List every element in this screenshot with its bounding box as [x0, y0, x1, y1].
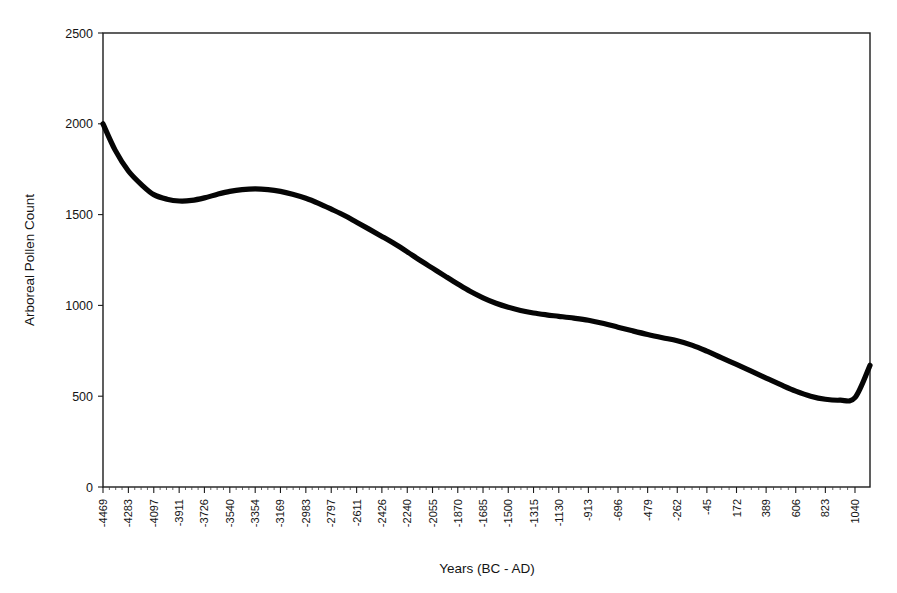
x-tick-label: -262 [671, 499, 683, 521]
x-tick-label: -3169 [274, 499, 286, 527]
x-tick-label: -4283 [122, 499, 134, 527]
x-tick-label: -2240 [401, 499, 413, 527]
x-tick-label: -1130 [553, 499, 565, 526]
x-tick-label: -1870 [452, 499, 464, 527]
x-tick-label: 606 [790, 499, 802, 517]
pollen-count-line-chart: 05001000150020002500 -4469-4283-4097-391… [0, 0, 897, 593]
x-tick-label: -1315 [528, 499, 540, 527]
x-tick-label: -3354 [249, 499, 261, 527]
x-tick-label: -2797 [325, 499, 337, 527]
x-tick-label: -3540 [224, 499, 236, 527]
y-tick-label: 1500 [65, 208, 93, 222]
y-tick-label: 2000 [65, 117, 93, 131]
x-tick-label: -913 [582, 499, 594, 521]
x-tick-label: -3726 [198, 499, 210, 527]
x-tick-label: -45 [701, 499, 713, 515]
x-tick-label: -3911 [173, 499, 185, 526]
x-tick-label: -2983 [300, 499, 312, 527]
x-tick-label: -696 [612, 499, 624, 521]
x-axis-title: Years (BC - AD) [439, 561, 535, 576]
x-tick-label: -4469 [97, 499, 109, 527]
x-tick-label: -4097 [148, 499, 160, 527]
y-tick-label: 0 [86, 481, 93, 495]
x-tick-label: -1500 [502, 499, 514, 527]
y-tick-label: 2500 [65, 27, 93, 41]
x-tick-label: -1685 [477, 499, 489, 527]
x-tick-label: 172 [731, 499, 743, 517]
figure-container: 05001000150020002500 -4469-4283-4097-391… [0, 0, 897, 593]
x-tick-label: 1040 [849, 499, 861, 523]
y-tick-label: 1000 [65, 299, 93, 313]
y-tick-label: 500 [72, 390, 93, 404]
y-axis-title: Arboreal Pollen Count [22, 194, 37, 326]
x-tick-label: -2055 [427, 499, 439, 527]
x-tick-label: -2426 [376, 499, 388, 527]
x-tick-label: -2611 [351, 499, 363, 526]
x-tick-label: -479 [642, 499, 654, 521]
x-tick-label: 389 [760, 499, 772, 517]
x-tick-label: 823 [819, 499, 831, 517]
